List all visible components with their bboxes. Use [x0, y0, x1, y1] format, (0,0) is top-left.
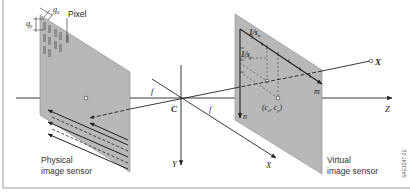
projection-ray-solid — [322, 61, 370, 71]
principal-point-label: (cx, cy) — [262, 103, 282, 113]
virtual-sensor-label-line2: image sensor — [327, 166, 378, 176]
diagram-frame: Pixel qx qy Physical image sensor Virtua… — [0, 0, 410, 192]
qx-label: qx — [53, 5, 60, 15]
axis-x-label: X — [265, 160, 272, 170]
axis-z-label: Z — [385, 104, 390, 114]
pinhole-camera-diagram: Pixel qx qy Physical image sensor Virtua… — [0, 0, 410, 192]
qy-label: qy — [26, 19, 33, 29]
principal-point — [276, 96, 280, 100]
axis-m-label: m — [314, 87, 320, 96]
world-point-x-label: X — [374, 57, 382, 67]
physical-image-sensor — [33, 8, 130, 172]
focal-length-left-label: f — [151, 86, 155, 96]
figure-code: SAE1247-2E — [401, 148, 407, 178]
physical-sensor-label-line2: image sensor — [41, 166, 92, 176]
world-point-x — [369, 59, 373, 63]
virtual-image-sensor — [235, 14, 322, 174]
focal-length-right-label: f — [209, 104, 213, 114]
axis-n-label: n — [243, 112, 247, 121]
physical-image-point — [84, 96, 88, 100]
axis-y-label: Y — [172, 159, 178, 169]
virtual-sensor-label-line1: Virtual — [327, 155, 351, 165]
physical-sensor-label-line1: Physical — [41, 155, 73, 165]
pixel-label: Pixel — [68, 9, 87, 19]
center-label: C — [171, 104, 178, 114]
